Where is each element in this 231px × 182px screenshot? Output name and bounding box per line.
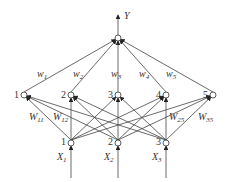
hidden-output-edge [121, 39, 213, 92]
input-node-label: 3 [156, 136, 161, 147]
input-hidden-edge [74, 96, 166, 140]
input-weight-label: W25 [169, 111, 185, 124]
hidden-node-label: 1 [14, 89, 19, 100]
hidden-output-edge [24, 39, 115, 92]
output-weight-label: w3 [111, 68, 122, 81]
hidden-node [210, 92, 216, 98]
input-hidden-edge [118, 96, 210, 140]
output-weight-label: w1 [37, 68, 47, 81]
input-weight-label: W35 [198, 111, 214, 124]
hidden-node-label: 5 [203, 89, 208, 100]
output-weight-label: w5 [166, 68, 177, 81]
hidden-node [163, 92, 169, 98]
input-hidden-edge [71, 97, 116, 140]
neural-network-diagram: Y123451X12X23X3w1w2w3w4w5W11W12W25W35 [0, 0, 231, 182]
input-label: X2 [103, 151, 114, 164]
input-node-label: 1 [61, 136, 66, 147]
input-label: X1 [56, 151, 67, 164]
input-hidden-edge [73, 97, 118, 140]
output-weight-label: w4 [139, 68, 150, 81]
input-node-label: 2 [108, 136, 113, 147]
input-hidden-edge [71, 96, 163, 140]
hidden-node [115, 92, 121, 98]
input-node [163, 140, 169, 146]
hidden-node-label: 4 [156, 89, 161, 100]
input-node [115, 140, 121, 146]
input-hidden-edge [120, 97, 166, 140]
output-label: Y [124, 10, 131, 21]
hidden-output-edge [71, 40, 116, 92]
hidden-node-label: 3 [108, 89, 113, 100]
hidden-node-label: 2 [61, 89, 66, 100]
input-weight-label: W12 [53, 111, 69, 124]
hidden-node [21, 92, 27, 98]
hidden-output-edge [120, 40, 166, 92]
output-weight-label: w2 [73, 68, 84, 81]
input-hidden-edge [118, 97, 164, 140]
input-weight-label: W11 [29, 111, 44, 124]
input-label: X3 [151, 151, 162, 164]
input-node [68, 140, 74, 146]
hidden-node [68, 92, 74, 98]
output-node [115, 35, 121, 41]
